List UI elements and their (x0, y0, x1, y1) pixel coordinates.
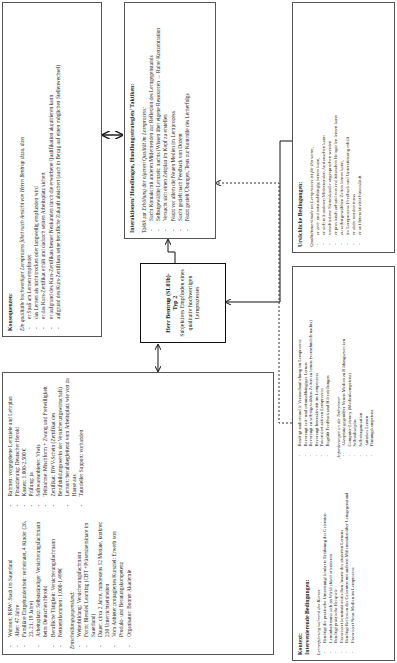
list-item: Berufliche Tätigkeit: Versicherungsfachm… (50, 519, 57, 650)
causal-conditions-box: Ursächliche Bedingungen: Qualitätsmerkma… (292, 2, 395, 253)
list-item: Vom Anbieter propagiertes Kursziel: Erwe… (111, 519, 125, 650)
list-item: Sucht Kontakt mit anderen Mitlernenden z… (148, 8, 155, 233)
list-item: Zertifikat: BWV-Schein (Zertifikat des B… (50, 378, 64, 509)
list-item: Nutzt vor allem die Neuen Medien im Lern… (170, 8, 177, 233)
list-item: Organisator: Bonner Akademie (126, 519, 133, 650)
person-column: Wohnort: NRW: Stadt im Sauerland Alter: … (7, 519, 133, 650)
list-item: Lernort: berufsbegleitend vom Arbeitspla… (64, 378, 78, 509)
list-item: Nettoeinkommen: 1.000-1.499€ (57, 519, 64, 650)
diagram-page: Wohnort: NRW: Stadt im Sauerland Alter: … (0, 0, 397, 663)
list-item: Finanzierung: Deutscher Herold (14, 378, 21, 509)
list-item: Versucht sich einen Zeitplan im Kopf zu … (162, 8, 169, 233)
list-item: Familiäre Eingebundenheit: verheiratet, … (21, 519, 35, 650)
consequences-title: Konsequenzen: (7, 8, 14, 331)
list-item: das Lernen als nicht trocken oder langwe… (33, 8, 40, 331)
consequences-box: Konsequenzen: Ein qualitativ hochwertige… (2, 2, 102, 337)
list-item: aufgrund des Kurs-Zertifikats seine beru… (55, 8, 62, 331)
list-item: er Spaß am Lernen empfindet (26, 8, 33, 331)
list-item: er aufgrund des Kurs-Zertifikats besser … (48, 8, 55, 331)
center-subtitle: Subjektives Empfinden eines qualitativ h… (179, 269, 201, 337)
list-item: Teilnahme: Mischform + Zwang und Freiwil… (42, 378, 49, 509)
list-item: Wohnort: NRW: Stadt im Sauerland (7, 519, 14, 650)
consequences-intro: Ein qualitativ hochwertiger Lernprozess … (19, 8, 26, 331)
list-item: Weiterbildung: Versicherungsfachmann (76, 519, 83, 650)
list-item: Rahmen: vorgegebene Lernziele und Lehrpl… (7, 378, 14, 509)
list-item: Selbstgewählte Lernzeit: nachts (Wissen … (155, 8, 162, 233)
list-item: Planungskompetenz (369, 272, 375, 459)
list-item: Prüfung: ja (28, 378, 35, 509)
list-item: Form: Blended Learning (CBT +Präsenzsemi… (83, 519, 97, 650)
list-item: Arbeitsplatz: Selbstständiger Versicheru… (35, 519, 49, 650)
context-subtitle: Intervenierende Bedingungen: (304, 469, 311, 656)
list-item: er das Kurs-Zertifikat erhält und dadurc… (40, 8, 47, 331)
list-item: Dauer: circa 2 Jahre, mindestens 12 Mona… (97, 519, 111, 650)
list-item: Softwareanbieter: Viwis (35, 378, 42, 509)
list-item: Begrüßt Feedback und Hilfestellungen (325, 272, 331, 459)
list-item: Sucht gezielt nach Feedback von Dozent (177, 8, 184, 233)
course-column: Rahmen: vorgegebene Lernziele und Lehrpl… (7, 378, 133, 509)
list-item: Kosten: 1.000-2.500 € (21, 378, 28, 509)
center-title: Herr Bentrup (SL01b)-Typ 2 (165, 269, 179, 337)
context-box: Kontext: Intervenierende Bedingungen: Le… (292, 266, 395, 661)
center-phenomenon-box: Herr Bentrup (SL01b)-Typ 2 Subjektives E… (140, 263, 226, 343)
list-item: Nutzt gezielt Übungen, Tests zur Kontrol… (184, 8, 191, 233)
decision-heading: Entscheidungsgegenstand: (69, 519, 76, 650)
context-title: Kontext: (297, 469, 304, 656)
interactions-title: Interaktionen/ Handlungen, Handlungsstra… (129, 8, 136, 233)
causal-title: Ursächliche Bedingungen: (297, 8, 304, 247)
interactions-intro: Taktik zur Erhöhung der eigenen Qualität… (141, 8, 148, 233)
person-course-box: Wohnort: NRW: Stadt im Sauerland Alter: … (2, 372, 274, 655)
list-item: Alter: 47 Jahre (14, 519, 21, 650)
list-item: er auf Interaktivität hinausläuft (357, 8, 363, 247)
list-item: Favorisiert Neue Medien im Lernprozess (350, 469, 356, 656)
interactions-box: Interaktionen/ Handlungen, Handlungsstra… (124, 2, 216, 239)
list-item: Tutorieller Support: vorhanden (78, 378, 85, 509)
